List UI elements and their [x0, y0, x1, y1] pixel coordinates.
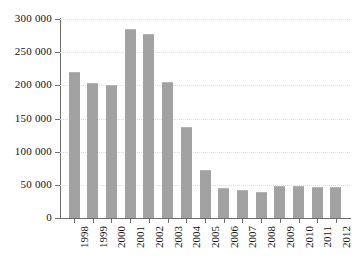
bar[interactable] — [125, 29, 136, 218]
x-axis-tick — [205, 218, 206, 223]
y-axis-label: 250 000 — [15, 46, 52, 57]
y-axis-label: 200 000 — [15, 79, 52, 90]
x-axis-tick — [242, 218, 243, 223]
bar[interactable] — [237, 190, 248, 218]
x-axis-label: 2005 — [210, 226, 221, 248]
bar[interactable] — [162, 82, 173, 218]
plot-area — [60, 19, 350, 218]
x-axis-label: 2011 — [322, 226, 333, 248]
y-axis-label: 50 000 — [21, 179, 52, 190]
bar[interactable] — [87, 83, 98, 218]
bar[interactable] — [69, 72, 80, 218]
x-axis-tick — [149, 218, 150, 223]
x-axis-label: 2006 — [229, 226, 240, 248]
x-axis-label: 1998 — [79, 226, 90, 248]
bar[interactable] — [274, 186, 285, 218]
bar[interactable] — [181, 127, 192, 218]
x-axis-tick — [130, 218, 131, 223]
x-axis-label: 2008 — [266, 226, 277, 248]
y-axis-label: 300 000 — [15, 13, 52, 24]
y-axis-tick — [55, 218, 60, 219]
bar[interactable] — [256, 192, 267, 218]
x-axis-tick — [280, 218, 281, 223]
bar[interactable] — [312, 187, 323, 218]
y-axis-label: 100 000 — [15, 146, 52, 157]
x-axis-tick — [261, 218, 262, 223]
x-axis-label: 1999 — [98, 226, 109, 248]
x-axis-tick — [186, 218, 187, 223]
x-axis-label: 2010 — [304, 226, 315, 248]
x-axis-tick — [299, 218, 300, 223]
y-axis-label: 150 000 — [15, 113, 52, 124]
bar[interactable] — [200, 170, 211, 218]
x-axis-tick — [224, 218, 225, 223]
x-axis-label: 2000 — [116, 226, 127, 248]
x-axis-tick — [93, 218, 94, 223]
bar[interactable] — [106, 85, 117, 218]
x-axis-label: 2001 — [135, 226, 146, 248]
x-axis-label: 2003 — [173, 226, 184, 248]
x-axis-tick — [111, 218, 112, 223]
x-axis-label: 2012 — [341, 226, 352, 248]
x-axis-label: 2007 — [247, 226, 258, 248]
y-axis-label: 0 — [46, 212, 52, 223]
bar[interactable] — [218, 188, 229, 219]
bar[interactable] — [330, 187, 341, 218]
x-axis-tick — [168, 218, 169, 223]
x-axis-tick — [74, 218, 75, 223]
bar[interactable] — [293, 186, 304, 219]
x-axis-tick — [317, 218, 318, 223]
x-axis-label: 2009 — [285, 226, 296, 248]
bar-chart: 050 000100 000150 000200 000250 000300 0… — [0, 0, 361, 277]
bar[interactable] — [143, 34, 154, 218]
x-axis-label: 2002 — [154, 226, 165, 248]
x-axis-tick — [336, 218, 337, 223]
x-axis-label: 2004 — [191, 226, 202, 248]
